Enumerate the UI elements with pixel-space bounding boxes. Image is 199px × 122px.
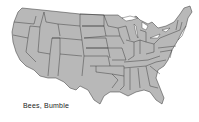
- states: [12, 6, 192, 104]
- map-caption: Bees, Bumble: [23, 102, 69, 109]
- us-outline: [12, 6, 192, 104]
